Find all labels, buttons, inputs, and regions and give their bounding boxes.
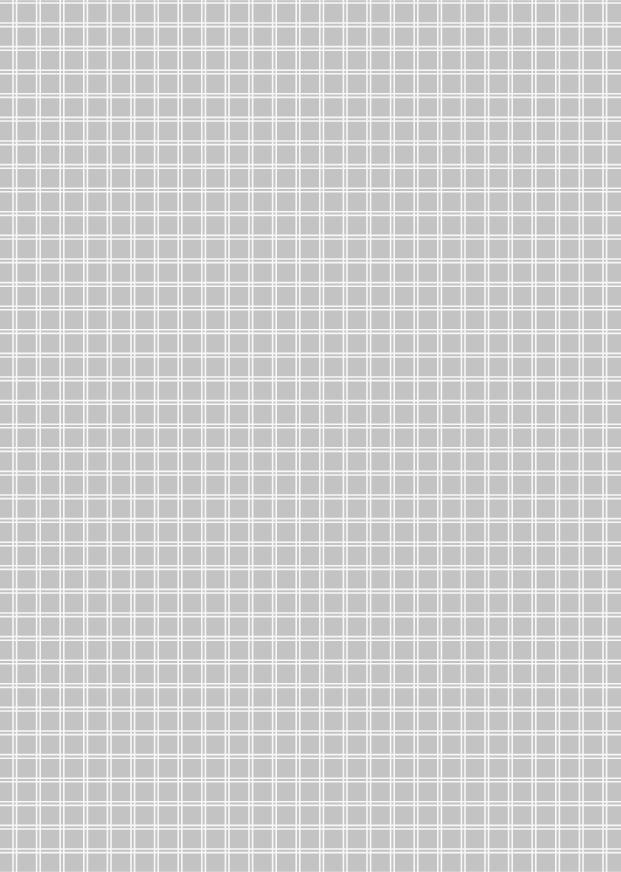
grid-paper-sheet xyxy=(0,0,621,872)
grid-lines xyxy=(0,0,621,872)
